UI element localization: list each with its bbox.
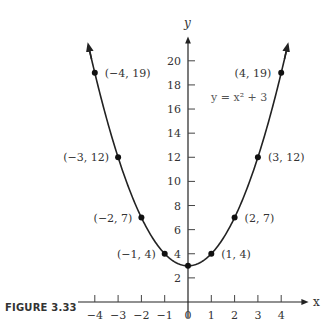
y-tick-label: 4 (174, 248, 181, 261)
x-tick-label: 3 (254, 309, 261, 322)
data-point (232, 215, 238, 221)
x-tick-label: 0 (185, 309, 192, 322)
data-points: (−4, 19)(−3, 12)(−2, 7)(−1, 4)(1, 4)(2, … (63, 67, 304, 269)
y-tick-label: 18 (167, 79, 181, 92)
y-tick-label: 8 (174, 200, 181, 213)
data-point (138, 215, 144, 221)
y-tick-label: 2 (174, 272, 181, 285)
y-tick-label: 12 (167, 151, 181, 164)
x-tick-label: −3 (110, 309, 126, 322)
data-point (255, 154, 261, 160)
data-point (278, 70, 284, 76)
x-tick-label: 2 (231, 309, 238, 322)
y-tick-label: 6 (174, 224, 181, 237)
parabola-chart: xy−4−3−2−1012342468101214161820 (−4, 19)… (0, 0, 331, 332)
data-point (92, 70, 98, 76)
point-label: (−3, 12) (63, 151, 109, 164)
data-point (185, 263, 191, 269)
point-label: (1, 4) (221, 248, 251, 261)
data-point (162, 251, 168, 257)
x-tick-label: 1 (208, 309, 215, 322)
point-label: (2, 7) (245, 212, 275, 225)
y-tick-label: 10 (167, 175, 181, 188)
point-label: (−4, 19) (105, 67, 151, 80)
point-label: (4, 19) (235, 67, 272, 80)
data-point (208, 251, 214, 257)
x-tick-label: −2 (133, 309, 149, 322)
y-tick-label: 16 (167, 103, 181, 116)
equation-label: y = x² + 3 (210, 91, 267, 104)
point-label: (3, 12) (268, 151, 305, 164)
x-tick-label: −4 (87, 309, 103, 322)
point-label: (−1, 4) (117, 248, 156, 261)
point-label: (−2, 7) (94, 212, 133, 225)
x-tick-label: −1 (157, 309, 173, 322)
x-axis-label: x (313, 295, 320, 309)
y-tick-label: 20 (167, 55, 181, 68)
y-axis-label: y (183, 16, 191, 30)
x-tick-label: 4 (278, 309, 285, 322)
figure-caption: FIGURE 3.33 (5, 302, 77, 313)
y-tick-label: 14 (167, 127, 181, 140)
data-point (115, 154, 121, 160)
